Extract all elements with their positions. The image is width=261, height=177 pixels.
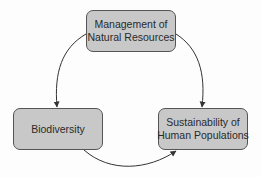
arrow-management-to-biodiversity [56, 34, 86, 107]
diagram-canvas: Management of Natural Resources Biodiver… [0, 0, 261, 177]
arrow-management-to-sustainability [176, 34, 203, 107]
node-label-line: Human Populations [157, 129, 249, 142]
node-management-of-natural-resources: Management of Natural Resources [86, 10, 176, 52]
node-sustainability-of-human-populations: Sustainability of Human Populations [158, 108, 248, 150]
node-label-line: Biodiversity [31, 123, 85, 136]
arrow-biodiversity-to-sustainability [84, 150, 176, 166]
node-label-line: Sustainability of [157, 116, 249, 129]
node-label-line: Natural Resources [88, 31, 175, 44]
node-biodiversity: Biodiversity [13, 108, 103, 150]
node-label-line: Management of [88, 18, 175, 31]
